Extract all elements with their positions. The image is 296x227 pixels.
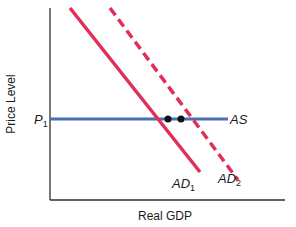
equilibrium-point-2 [178, 116, 185, 123]
equilibrium-point-1 [165, 116, 172, 123]
y-axis-label: Price Level [4, 74, 18, 133]
ad1-curve [70, 8, 200, 172]
p1-tick-label: P1 [34, 112, 48, 129]
x-axis-label: Real GDP [138, 209, 192, 223]
ad-as-chart: Price Level P1 AS AD1 AD2 Real GDP [0, 0, 296, 227]
ad2-curve [110, 8, 238, 180]
ad2-label: AD2 [217, 171, 241, 188]
as-label: AS [229, 112, 248, 127]
ad1-label: AD1 [171, 176, 195, 193]
